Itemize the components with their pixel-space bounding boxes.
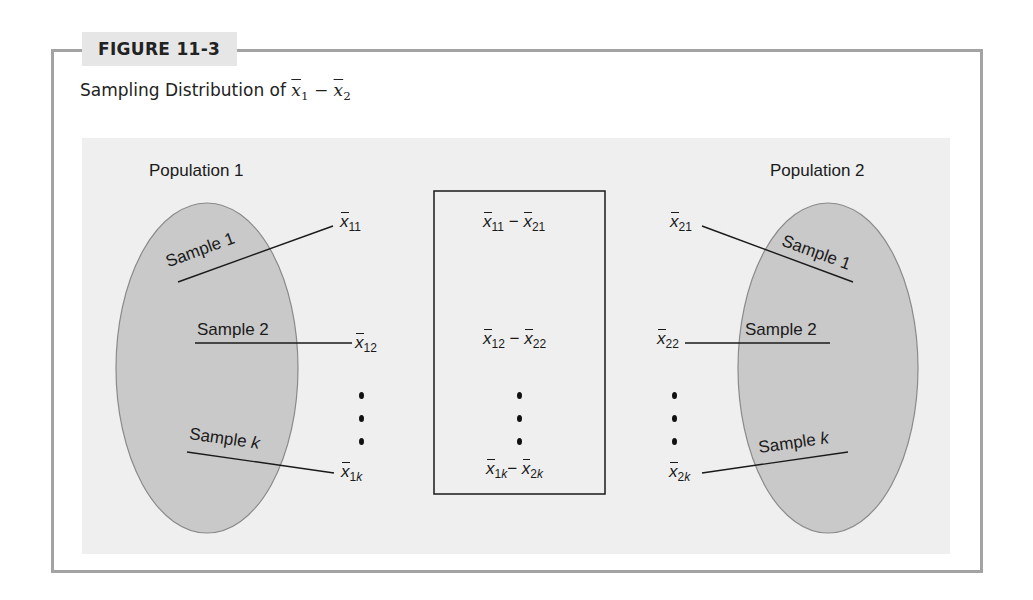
mean-x1k: x1k: [341, 462, 362, 482]
ellipsis-dot: [517, 438, 522, 445]
diff-row-k: x1k− x2k: [486, 459, 543, 479]
mean-x2k: x2k: [669, 462, 690, 482]
diff-row-2: x12 − x22: [483, 329, 546, 349]
population-2-title: Population 2: [770, 161, 865, 181]
mean-x11: x11: [340, 212, 361, 232]
p1-sample-2-label: Sample 2: [197, 320, 269, 340]
ellipsis-dot: [517, 392, 522, 399]
mean-x12: x12: [355, 333, 377, 353]
ellipsis-dot: [359, 415, 364, 422]
ellipsis-dot: [359, 438, 364, 445]
ellipsis-dot: [672, 438, 677, 445]
ellipsis-dot: [517, 415, 522, 422]
mean-x21: x21: [670, 212, 692, 232]
ellipsis-dot: [672, 392, 677, 399]
mean-x22: x22: [657, 329, 679, 349]
ellipsis-dot: [672, 415, 677, 422]
p2-sample-2-label: Sample 2: [745, 320, 817, 340]
diff-row-1: x11 − x21: [483, 212, 545, 232]
diagram-shapes: [0, 0, 1033, 600]
ellipsis-dot: [359, 392, 364, 399]
population-1-title: Population 1: [149, 161, 244, 181]
